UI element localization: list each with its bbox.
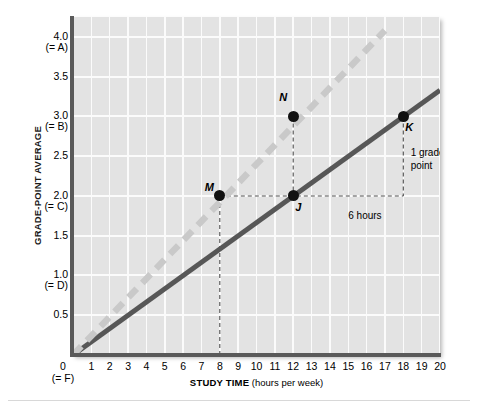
- annotation-run-label: 6 hours: [348, 210, 381, 222]
- x-axis-title: STUDY TIME (hours per week): [73, 377, 440, 388]
- y-axis-tick-4-0: 4.0(= A): [0, 31, 68, 54]
- chart-figure: GRADE-POINT AVERAGE 4.0(= A)3.53.0(= B)2…: [0, 0, 478, 406]
- y-tick-grade: (= B): [0, 121, 68, 133]
- series-solid-line: [73, 90, 440, 355]
- x-axis-title-main: STUDY TIME: [190, 377, 249, 388]
- data-point-N[interactable]: [288, 111, 299, 122]
- y-tick-value: 3.5: [53, 70, 68, 82]
- y-axis-line: [70, 16, 74, 357]
- data-point-label-N: N: [279, 91, 287, 103]
- y-tick-grade: (= C): [0, 201, 68, 213]
- series-layer: [73, 17, 440, 355]
- x-axis-line: [70, 353, 441, 357]
- data-point-label-M: M: [205, 181, 214, 193]
- data-point-label-J: J: [295, 201, 301, 213]
- y-tick-value: 0.5: [53, 308, 68, 320]
- y-tick-value: 1.5: [53, 229, 68, 241]
- plot-area: MNJK6 hours1 gradepoint: [73, 17, 440, 355]
- series-dashed-line: [73, 31, 385, 355]
- y-tick-grade: (= D): [0, 280, 68, 292]
- y-tick-value: 2.5: [53, 149, 68, 161]
- x-axis-title-units: (hours per week): [249, 377, 323, 388]
- y-axis-tick-1-5: 1.5: [0, 230, 68, 241]
- y-axis-tick-labels: 4.0(= A)3.53.0(= B)2.52.0(= C)1.51.0(= D…: [0, 0, 68, 406]
- y-axis-tick-2-0: 2.0(= C): [0, 190, 68, 213]
- x-axis-tick-20: 20: [428, 360, 452, 372]
- x-axis-tick-labels: 1234567891011121314151617181920: [0, 360, 478, 376]
- y-tick-grade: (= A): [0, 42, 68, 54]
- annotation-rise-label-line1: 1 grade: [411, 147, 440, 159]
- annotation-rise-label-line2: point: [411, 160, 433, 172]
- y-axis-tick-3-5: 3.5: [0, 71, 68, 82]
- data-point-label-K: K: [405, 121, 413, 133]
- y-axis-tick-2-5: 2.5: [0, 150, 68, 161]
- plot-inner: MNJK6 hours1 gradepoint: [73, 17, 440, 355]
- data-point-K[interactable]: [398, 111, 409, 122]
- y-axis-tick-1-0: 1.0(= D): [0, 269, 68, 292]
- y-axis-tick-3-0: 3.0(= B): [0, 110, 68, 133]
- figure-bottom-rule: [8, 400, 470, 401]
- y-axis-tick-0-5: 0.5: [0, 309, 68, 320]
